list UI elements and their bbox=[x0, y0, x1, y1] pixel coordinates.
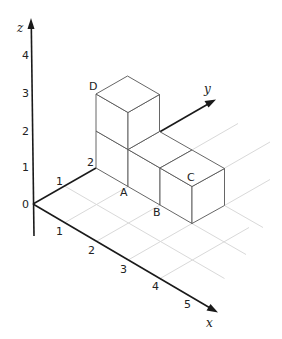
z-tick-label: 4 bbox=[22, 49, 29, 62]
x-axis-label: x bbox=[206, 316, 213, 330]
point-label-d: D bbox=[89, 80, 97, 93]
grid-line bbox=[161, 228, 249, 279]
z-tick-label: 1 bbox=[22, 161, 29, 174]
grid-line bbox=[223, 142, 270, 169]
grid-line bbox=[225, 180, 271, 206]
y-axis-arrowhead bbox=[205, 100, 217, 108]
cube-stack bbox=[96, 76, 225, 224]
y-tick-label: 1 bbox=[56, 175, 63, 188]
grid-line bbox=[192, 224, 246, 255]
y-axis-label: y bbox=[203, 82, 211, 96]
x-tick-label: 5 bbox=[184, 298, 191, 311]
grid-line bbox=[191, 124, 238, 151]
grid-line bbox=[225, 206, 264, 228]
point-label-a: A bbox=[120, 186, 128, 199]
x-tick-label: 1 bbox=[56, 225, 63, 238]
point-label-c: C bbox=[187, 171, 195, 184]
y-tick-label: 2 bbox=[87, 156, 94, 169]
z-axis-arrowhead bbox=[28, 18, 35, 29]
z-axis-label: z bbox=[16, 21, 24, 35]
isometric-cube-diagram: 0 1 2 3 4 1 2 1 2 3 4 5 z y x D A B C bbox=[0, 0, 282, 339]
x-tick-label: 3 bbox=[120, 263, 127, 276]
origin-label: 0 bbox=[22, 198, 29, 211]
x-tick-label: 4 bbox=[152, 280, 159, 293]
x-tick-label: 2 bbox=[88, 244, 95, 257]
y-axis-rear bbox=[160, 104, 210, 133]
z-tick-label: 2 bbox=[22, 125, 29, 138]
point-label-b: B bbox=[153, 206, 161, 219]
x-axis-arrowhead bbox=[207, 304, 219, 313]
z-tick-label: 3 bbox=[22, 87, 29, 100]
